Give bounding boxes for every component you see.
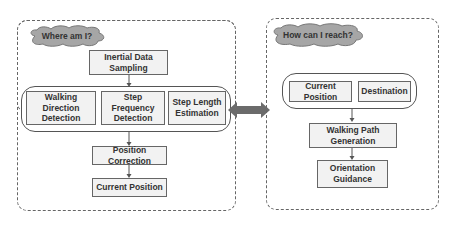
position-correction-box: Position Correction bbox=[92, 146, 167, 165]
bidirectional-arrow-icon bbox=[228, 102, 270, 118]
where-am-i-label: Where am I? bbox=[27, 25, 107, 47]
destination-box: Destination bbox=[358, 81, 411, 102]
step-frequency-detection-box: Step Frequency Detection bbox=[101, 91, 165, 125]
orientation-guidance-box: Orientation Guidance bbox=[317, 160, 388, 188]
walking-path-generation-box: Walking Path Generation bbox=[309, 123, 397, 148]
current-position-box: Current Position bbox=[92, 178, 167, 197]
how-can-i-reach-cloud: How can I reach? bbox=[270, 23, 366, 47]
arrow-down-icon bbox=[348, 109, 356, 122]
how-can-i-reach-label: How can I reach? bbox=[270, 23, 366, 47]
walking-direction-detection-box: Walking Direction Detection bbox=[26, 91, 96, 125]
current-position-input-box: Current Position bbox=[289, 81, 352, 102]
arrow-down-icon bbox=[348, 148, 356, 160]
step-length-estimation-box: Step Length Estimation bbox=[168, 91, 226, 125]
where-am-i-cloud: Where am I? bbox=[27, 25, 107, 47]
inertial-data-sampling-box: Inertial Data Sampling bbox=[89, 50, 168, 75]
arrow-down-icon bbox=[125, 165, 133, 178]
